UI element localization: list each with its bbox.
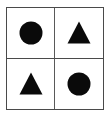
filled-triangle-icon — [67, 21, 91, 45]
shape-matrix-grid — [6, 7, 104, 110]
grid-cell-top-left — [7, 8, 55, 59]
grid-cell-bottom-left — [7, 59, 55, 110]
grid-cell-top-right — [55, 8, 103, 59]
filled-circle-icon — [67, 72, 91, 96]
figure-canvas — [0, 0, 109, 118]
grid-cell-bottom-right — [55, 59, 103, 110]
filled-triangle-icon — [19, 72, 43, 96]
filled-circle-icon — [19, 21, 43, 45]
